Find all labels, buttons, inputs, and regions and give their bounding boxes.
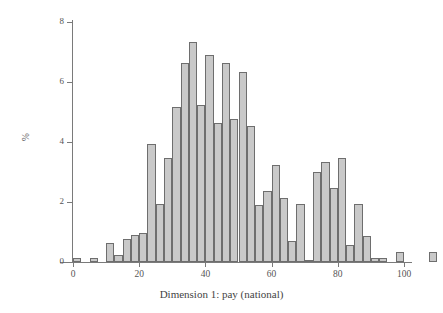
histogram-bar — [363, 236, 371, 262]
histogram-bar — [189, 42, 197, 262]
histogram-bar — [396, 252, 404, 263]
histogram-bar — [222, 63, 230, 262]
histogram-bar — [164, 158, 172, 262]
x-axis-title: Dimension 1: pay (national) — [0, 288, 443, 300]
x-axis-tick — [73, 262, 74, 267]
histogram-bar — [379, 258, 387, 262]
y-axis-tick-label: 6 — [42, 77, 64, 87]
histogram-bar — [321, 162, 329, 262]
y-axis-tick-label: 2 — [42, 197, 64, 207]
x-axis-tick — [272, 262, 273, 267]
x-axis-tick-label: 40 — [185, 269, 225, 280]
histogram-bar — [156, 204, 164, 263]
y-axis-tick — [67, 82, 72, 83]
histogram-bars — [73, 22, 404, 262]
x-axis-tick — [139, 262, 140, 267]
histogram-bar — [181, 63, 189, 262]
y-axis-tick-label: 4 — [42, 137, 64, 147]
histogram-bar — [172, 107, 180, 262]
histogram-bar — [131, 235, 139, 262]
x-axis-tick — [404, 262, 405, 267]
histogram-bar — [197, 105, 205, 262]
histogram-bar — [330, 188, 338, 262]
x-axis-line — [60, 262, 412, 263]
histogram-bar — [139, 233, 147, 262]
x-axis-tick-label: 20 — [119, 269, 159, 280]
histogram-bar — [147, 144, 155, 263]
histogram-bar — [106, 243, 114, 262]
y-axis-title: % — [21, 127, 31, 147]
histogram-bar — [296, 204, 304, 262]
histogram-bar — [346, 245, 354, 262]
x-axis-tick — [205, 262, 206, 267]
histogram-bar — [230, 119, 238, 262]
histogram-bar — [371, 258, 379, 262]
histogram-bar — [305, 260, 313, 262]
histogram-bar — [205, 55, 213, 262]
histogram-bar — [263, 191, 271, 262]
histogram-bar — [214, 123, 222, 262]
histogram-bar — [313, 172, 321, 262]
x-axis-tick — [338, 262, 339, 267]
y-axis-tick-label: 0 — [42, 257, 64, 267]
x-axis-tick-label: 0 — [53, 269, 93, 280]
histogram-bar — [338, 158, 346, 262]
y-axis-tick — [67, 22, 72, 23]
histogram-bar — [90, 258, 98, 262]
histogram-bar — [73, 258, 81, 263]
y-axis-tick-label: 8 — [42, 17, 64, 27]
histogram-bar — [272, 165, 280, 263]
histogram-bar — [255, 205, 263, 262]
histogram-bar — [280, 198, 288, 262]
y-axis-tick — [67, 202, 72, 203]
histogram-bar — [114, 255, 122, 262]
histogram-bar — [354, 204, 362, 262]
histogram-bar — [239, 72, 247, 263]
y-axis-tick — [67, 262, 72, 263]
histogram-bar — [429, 252, 437, 263]
y-axis-tick — [67, 142, 72, 143]
x-axis-tick-label: 100 — [384, 269, 424, 280]
histogram-bar — [247, 126, 255, 263]
histogram-bar — [288, 241, 296, 262]
histogram-figure: % 02468 020406080100 Dimension 1: pay (n… — [0, 0, 443, 313]
plot-area — [73, 22, 404, 262]
x-axis-tick-label: 60 — [252, 269, 292, 280]
histogram-bar — [123, 239, 131, 262]
x-axis-tick-label: 80 — [318, 269, 358, 280]
